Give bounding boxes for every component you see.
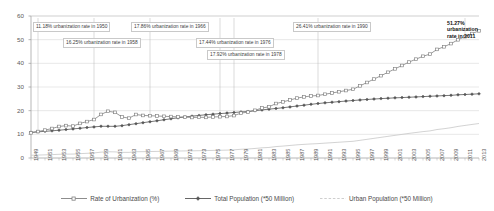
x-axis-tick-1985: 1985	[285, 149, 291, 161]
legend-label: Urban Population (*50 Million)	[349, 195, 433, 202]
legend-marker	[185, 195, 211, 202]
chart-legend: Rate of Urbanization (%)Total Population…	[0, 190, 494, 206]
x-axis-tick-1973: 1973	[201, 149, 207, 161]
x-axis-tick-1975: 1975	[215, 149, 221, 161]
legend-marker	[320, 195, 346, 202]
x-axis-tick-1949: 1949	[33, 149, 39, 161]
annotation-1990: 26.41% urbanization rate in 1990	[293, 22, 371, 32]
annotation-1950: 11.18% urbanization rate in 1950	[33, 22, 110, 32]
x-axis-tick-1957: 1957	[89, 149, 95, 161]
x-axis-tick-2001: 2001	[397, 149, 403, 161]
urbanization-chart: 0102030405060 19491951195319551957195919…	[0, 0, 494, 211]
x-axis-tick-1965: 1965	[145, 149, 151, 161]
x-axis-tick-1983: 1983	[271, 149, 277, 161]
x-axis-tick-1977: 1977	[229, 149, 235, 161]
legend-label: Rate of Urbanization (%)	[90, 195, 159, 202]
x-axis-tick-1995: 1995	[355, 149, 361, 161]
x-axis-tick-1961: 1961	[117, 149, 123, 161]
annotation-1978: 17.92% urbanization rate in 1978	[207, 50, 285, 60]
x-axis-tick-1993: 1993	[341, 149, 347, 161]
x-axis-tick-1963: 1963	[131, 149, 137, 161]
legend-item-total-population-50-million-[interactable]: Total Population (*50 Million)	[185, 195, 294, 202]
x-axis-tick-2013: 2013	[481, 149, 487, 161]
legend-marker	[61, 195, 87, 202]
x-axis-tick-1987: 1987	[299, 149, 305, 161]
y-axis-tick-50: 50	[8, 36, 24, 43]
annotation-1966: 17.86% urbanization rate in 1966	[131, 22, 209, 32]
x-axis-tick-1981: 1981	[257, 149, 263, 161]
annotation-1958: 16.25% urbanization rate in 1958	[63, 38, 141, 48]
x-axis-tick-2005: 2005	[425, 149, 431, 161]
x-axis-tick-1997: 1997	[369, 149, 375, 161]
x-axis-tick-2007: 2007	[439, 149, 445, 161]
x-axis-tick-1953: 1953	[61, 149, 67, 161]
x-axis-tick-2009: 2009	[453, 149, 459, 161]
x-axis-tick-1955: 1955	[75, 149, 81, 161]
x-axis-tick-1951: 1951	[47, 149, 53, 161]
legend-item-urban-population-50-million-[interactable]: Urban Population (*50 Million)	[320, 195, 433, 202]
y-axis-tick-60: 60	[8, 12, 24, 19]
legend-item-rate-of-urbanization-[interactable]: Rate of Urbanization (%)	[61, 195, 159, 202]
y-axis-tick-0: 0	[8, 154, 24, 161]
plot-area	[0, 0, 494, 211]
x-axis-tick-1991: 1991	[327, 149, 333, 161]
annotation-2011-final: 51.27%urbanizationrate in 2011	[447, 20, 487, 39]
x-axis-tick-2011: 2011	[467, 149, 473, 161]
x-axis-tick-1999: 1999	[383, 149, 389, 161]
legend-label: Total Population (*50 Million)	[214, 195, 294, 202]
final-label-line-3: rate in 2011	[447, 33, 487, 39]
x-axis-tick-1959: 1959	[103, 149, 109, 161]
x-axis-tick-2003: 2003	[411, 149, 417, 161]
annotation-1976: 17.44% urbanization rate in 1976	[196, 38, 274, 48]
x-axis-tick-1979: 1979	[243, 149, 249, 161]
y-axis-tick-20: 20	[8, 107, 24, 114]
x-axis-tick-1989: 1989	[313, 149, 319, 161]
x-axis-tick-1969: 1969	[173, 149, 179, 161]
y-axis-tick-10: 10	[8, 130, 24, 137]
y-axis-tick-30: 30	[8, 83, 24, 90]
y-axis-tick-40: 40	[8, 59, 24, 66]
x-axis-tick-1971: 1971	[187, 149, 193, 161]
x-axis-tick-1967: 1967	[159, 149, 165, 161]
